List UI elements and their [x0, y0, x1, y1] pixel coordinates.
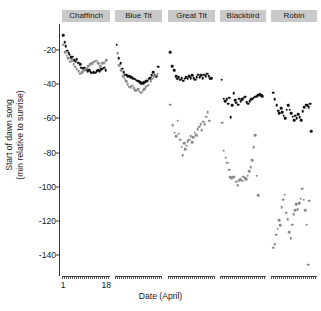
data-point-light — [148, 84, 151, 87]
data-point-light — [116, 52, 119, 55]
panel-plot-area — [220, 24, 266, 276]
data-point-dark — [76, 58, 79, 61]
data-point-dark — [104, 69, 107, 72]
data-point-dark — [287, 104, 290, 107]
data-point-light — [304, 209, 307, 212]
data-point-dark — [117, 57, 120, 60]
data-point-light — [99, 65, 102, 68]
data-point-light — [182, 154, 185, 157]
data-point-light — [245, 178, 248, 181]
panel-robin: Robin — [271, 24, 317, 276]
panel-header-label: Chaffinch — [62, 10, 110, 22]
data-point-dark — [244, 96, 247, 99]
data-point-light — [308, 199, 311, 202]
data-point-light — [241, 180, 244, 183]
data-point-light — [171, 124, 174, 127]
data-point-dark — [194, 78, 197, 81]
data-point-light — [292, 213, 295, 216]
data-point-dark — [284, 117, 287, 120]
data-point-dark — [64, 45, 67, 48]
data-point-light — [120, 69, 123, 72]
data-point-light — [291, 223, 294, 226]
data-point-dark — [290, 112, 293, 115]
y-tick-label: -40 — [20, 79, 56, 89]
data-point-light — [228, 168, 231, 171]
data-point-dark — [309, 102, 312, 105]
data-point-light — [233, 175, 236, 178]
data-point-dark — [261, 95, 264, 98]
data-point-dark — [300, 119, 303, 122]
data-point-light — [201, 129, 204, 132]
data-point-dark — [220, 78, 223, 81]
x-tick-label: 1 — [61, 280, 66, 290]
y-tick-label: -60 — [20, 113, 56, 123]
panel-blue-tit: Blue Tit — [115, 24, 162, 276]
x-axis-segment — [62, 276, 110, 279]
data-point-light — [224, 156, 227, 159]
data-point-light — [275, 234, 278, 237]
data-point-dark — [288, 108, 291, 111]
dawn-song-scatter-figure: Start of dawn song (min relative to sunr… — [0, 0, 321, 311]
data-point-dark — [115, 43, 118, 46]
data-point-light — [191, 141, 194, 144]
data-point-dark — [62, 34, 65, 37]
data-point-light — [179, 138, 182, 141]
data-point-light — [221, 121, 224, 124]
data-point-light — [302, 198, 305, 201]
panel-plot-area — [115, 24, 162, 276]
data-point-light — [289, 237, 292, 240]
data-point-light — [297, 208, 300, 211]
data-point-light — [149, 80, 152, 83]
data-point-light — [198, 126, 201, 129]
data-point-light — [105, 59, 108, 62]
data-point-light — [247, 174, 250, 177]
y-axis-spine — [59, 24, 60, 276]
panel-header-label: Great Tit — [168, 10, 215, 22]
data-point-light — [284, 193, 287, 196]
data-point-light — [62, 43, 65, 46]
data-point-light — [251, 159, 254, 162]
data-point-dark — [297, 113, 300, 116]
panel-header-label: Robin — [271, 10, 317, 22]
data-point-light — [204, 123, 207, 126]
data-point-light — [285, 211, 288, 214]
data-point-light — [298, 202, 301, 205]
data-point-light — [249, 166, 252, 169]
data-point-light — [184, 148, 187, 151]
data-point-light — [208, 120, 211, 123]
data-point-dark — [272, 91, 275, 94]
y-tick-mark — [56, 186, 59, 187]
data-point-light — [207, 111, 210, 114]
y-tick-mark — [56, 221, 59, 222]
data-point-light — [286, 218, 289, 221]
data-point-light — [180, 145, 183, 148]
y-tick-label: -100 — [20, 182, 56, 192]
data-point-light — [276, 228, 279, 231]
data-point-light — [103, 61, 106, 64]
panel-great-tit: Great Tit — [168, 24, 215, 276]
data-point-dark — [310, 130, 313, 133]
panel-header-label: Blackbird — [220, 10, 266, 22]
data-point-light — [196, 128, 199, 131]
x-axis-title: Date (April) — [0, 291, 321, 301]
y-tick-label: -20 — [20, 45, 56, 55]
data-point-light — [195, 134, 198, 137]
data-point-light — [255, 174, 258, 177]
panel-plot-area — [271, 24, 317, 276]
data-point-light — [71, 59, 74, 62]
y-tick-mark — [56, 49, 59, 50]
data-point-dark — [281, 111, 284, 114]
data-point-light — [223, 150, 226, 153]
data-point-light — [236, 184, 239, 187]
data-point-dark — [301, 110, 304, 113]
data-point-light — [248, 170, 251, 173]
data-point-light — [151, 78, 154, 81]
panel-blackbird: Blackbird — [220, 24, 266, 276]
data-point-light — [85, 67, 88, 70]
panel-chaffinch: Chaffinch — [62, 24, 110, 276]
data-point-dark — [307, 106, 310, 109]
data-point-light — [67, 57, 70, 60]
data-point-dark — [210, 77, 213, 80]
data-point-light — [254, 134, 257, 137]
panel-plot-area — [62, 24, 110, 276]
